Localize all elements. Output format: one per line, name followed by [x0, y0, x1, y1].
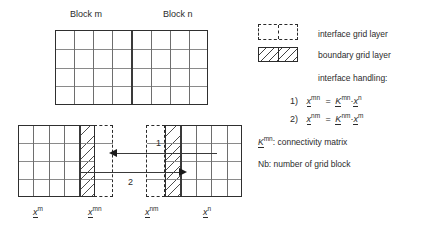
left-interface-hline	[95, 143, 113, 144]
legend-k-definition: Kmn: connectivity matrix	[258, 138, 347, 148]
top-grid-vline	[93, 31, 94, 104]
formula-2: 2) xnm = Knm·xm	[290, 115, 363, 125]
figure-canvas: Block m Block n	[0, 0, 442, 234]
legend-k-definition-sup: mn	[264, 135, 273, 142]
left-block-group	[18, 125, 114, 197]
right-interface-hline	[147, 179, 165, 180]
top-grid-vline	[74, 31, 75, 104]
legend-nb-definition: Nb: number of grid block	[258, 160, 351, 169]
left-block-hline	[19, 143, 94, 144]
top-grid-center-divider	[131, 31, 133, 104]
axis-label-xnm: xnm	[145, 208, 159, 218]
legend-handling-title: interface handling:	[318, 74, 387, 83]
formula-2-index: 2)	[290, 114, 298, 124]
top-grid-vline	[112, 31, 113, 104]
right-block-group	[146, 125, 242, 197]
axis-label-xnm-sup: nm	[150, 205, 159, 212]
block-n-title: Block n	[163, 10, 193, 19]
formula-2-rhs-sup: m	[358, 112, 363, 119]
left-interface-grid-layer	[94, 125, 113, 197]
left-block-vline	[64, 126, 65, 196]
formula-2-eq: =	[326, 114, 331, 124]
legend-k-definition-text: : connectivity matrix	[273, 137, 348, 147]
left-boundary-layer-edge	[79, 126, 81, 196]
right-block-vline	[227, 126, 228, 196]
right-block-vline	[211, 126, 212, 196]
legend-interface-swatch-divider	[278, 25, 279, 39]
left-block-vline	[33, 126, 34, 196]
top-grid-vline	[189, 31, 190, 104]
right-boundary-layer-edge	[180, 126, 182, 196]
arrow-1-head	[109, 149, 117, 157]
axis-label-xmn-sup: mn	[93, 205, 102, 212]
top-grid-vline	[170, 31, 171, 104]
legend-interface-swatch	[258, 24, 298, 40]
arrow-2-head	[179, 168, 187, 176]
axis-label-xmn: xmn	[88, 208, 102, 218]
right-interface-grid-layer	[146, 125, 165, 197]
axis-label-xm: xm	[33, 208, 43, 218]
axis-label-xn-sup: n	[208, 205, 212, 212]
top-grid-vline	[151, 31, 152, 104]
right-block-hline	[166, 143, 241, 144]
legend-panel: interface grid layer boundary grid layer…	[258, 20, 442, 185]
formula-1: 1) xmn = Kmn·xn	[290, 97, 362, 107]
legend-boundary-label: boundary grid layer	[318, 51, 391, 60]
left-block-hline	[19, 179, 94, 180]
arrow-2-label: 2	[128, 177, 133, 187]
right-block-vline	[196, 126, 197, 196]
right-block-hline	[166, 179, 241, 180]
top-unified-grid	[55, 30, 208, 105]
block-m-title: Block m	[70, 10, 102, 19]
arrow-1-label: 1	[156, 138, 161, 148]
axis-label-xm-sup: m	[38, 205, 43, 212]
right-block-hline	[166, 161, 241, 162]
left-interface-hline	[95, 179, 113, 180]
formula-2-lhs-sup: nm	[311, 112, 320, 119]
axis-label-xn: xn	[203, 208, 211, 218]
formula-1-rhs-sup: n	[358, 94, 362, 101]
formula-1-lhs-sup: mn	[311, 94, 320, 101]
left-block-hline	[19, 161, 94, 162]
formula-1-index: 1)	[290, 96, 298, 106]
legend-interface-label: interface grid layer	[318, 30, 388, 39]
formula-1-eq: =	[326, 96, 331, 106]
arrow-1-line	[117, 153, 217, 154]
arrow-2-line	[79, 172, 179, 173]
legend-boundary-swatch-divider	[278, 48, 279, 61]
left-block-vline	[49, 126, 50, 196]
legend-boundary-swatch	[258, 47, 298, 62]
